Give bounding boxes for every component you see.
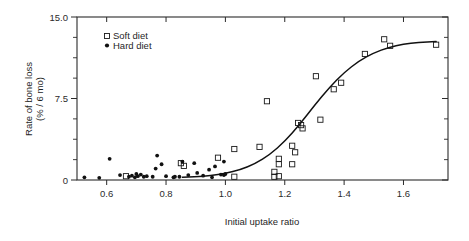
data-point-hard-diet: [83, 175, 87, 179]
data-point-soft-diet: [293, 150, 298, 155]
chart-figure: 0.60.81.01.21.41.6 07.515.0 Soft diet Ha…: [0, 0, 469, 241]
x-tick-label-1.4: 1.4: [338, 188, 351, 199]
x-tick-label-1.0: 1.0: [219, 188, 232, 199]
data-point-soft-diet: [318, 117, 323, 122]
data-point-soft-diet: [276, 162, 281, 167]
x-tick-label-1.6: 1.6: [397, 188, 410, 199]
data-point-hard-diet: [160, 162, 164, 166]
legend-marker-soft-diet: [105, 34, 110, 39]
data-point-hard-diet: [192, 161, 196, 165]
y-tick-label-7.5: 7.5: [55, 93, 68, 104]
data-point-soft-diet: [232, 174, 237, 179]
data-point-hard-diet: [155, 154, 159, 158]
y-axis-tick-labels: 07.515.0: [50, 12, 69, 186]
data-point-soft-diet: [290, 162, 295, 167]
data-point-soft-diet: [257, 144, 262, 149]
data-point-hard-diet: [97, 176, 101, 180]
y-axis-title-line1: Rate of bone loss: [23, 62, 34, 136]
data-point-hard-diet: [210, 175, 214, 179]
data-point-hard-diet: [195, 171, 199, 175]
data-point-hard-diet: [145, 174, 149, 178]
series-soft-diet-markers: [123, 37, 438, 180]
x-tick-label-0.8: 0.8: [159, 188, 172, 199]
data-point-hard-diet: [180, 160, 184, 164]
chart-legend: Soft diet Hard diet: [105, 30, 152, 51]
data-point-hard-diet: [164, 174, 168, 178]
x-axis-title: Initial uptake ratio: [225, 216, 299, 227]
data-point-soft-diet: [276, 156, 281, 161]
data-point-soft-diet: [290, 143, 295, 148]
data-point-soft-diet: [331, 87, 336, 92]
data-point-soft-diet: [215, 155, 220, 160]
data-point-hard-diet: [151, 175, 155, 179]
y-tick-label-0: 0: [63, 175, 68, 186]
data-point-hard-diet: [108, 157, 112, 161]
data-point-hard-diet: [173, 175, 177, 179]
data-point-hard-diet: [178, 175, 182, 179]
data-point-hard-diet: [118, 173, 122, 177]
y-tick-label-15.0: 15.0: [50, 12, 69, 23]
data-point-soft-diet: [434, 42, 439, 47]
data-point-hard-diet: [154, 167, 158, 171]
data-point-hard-diet: [213, 165, 217, 169]
data-point-hard-diet: [224, 172, 228, 176]
scatter-plot: 0.60.81.01.21.41.6 07.515.0 Soft diet Ha…: [0, 0, 469, 241]
data-point-soft-diet: [362, 51, 367, 56]
x-tick-label-1.2: 1.2: [278, 188, 291, 199]
legend-marker-hard-diet: [105, 43, 109, 47]
data-point-soft-diet: [313, 74, 318, 79]
y-axis-title-line2: (% / 6 mo): [34, 77, 45, 121]
data-point-hard-diet: [201, 174, 205, 178]
data-point-hard-diet: [222, 160, 226, 164]
data-point-soft-diet: [339, 80, 344, 85]
data-point-soft-diet: [232, 146, 237, 151]
data-point-soft-diet: [300, 126, 305, 131]
data-point-soft-diet: [264, 99, 269, 104]
data-point-soft-diet: [382, 37, 387, 42]
x-tick-label-0.6: 0.6: [100, 188, 113, 199]
legend-label-hard-diet: Hard diet: [113, 40, 152, 51]
x-axis-tick-labels: 0.60.81.01.21.41.6: [100, 188, 410, 199]
data-point-hard-diet: [207, 168, 211, 172]
data-point-hard-diet: [186, 173, 190, 177]
